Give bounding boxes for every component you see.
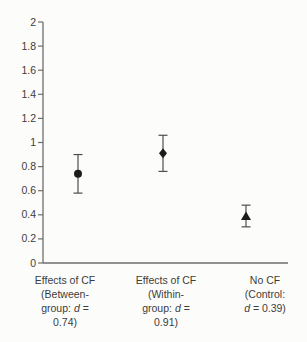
- x-label-line: (Between-: [41, 288, 89, 300]
- x-label-line: Effects of CF: [136, 274, 197, 286]
- data-point-1: [74, 155, 83, 194]
- y-tick-label: 1.8: [21, 40, 36, 52]
- diamond-marker: [159, 148, 167, 158]
- x-label-line: No CF: [250, 274, 280, 286]
- y-tick-label: 2: [30, 16, 36, 28]
- circle-marker: [74, 170, 82, 178]
- x-label-line: d = 0.39): [244, 302, 286, 314]
- y-tick-label: 1.4: [21, 88, 36, 100]
- x-label-line: group: d =: [142, 302, 190, 314]
- triangle-marker: [241, 212, 251, 221]
- x-category-label-2: Effects of CF(Within-group: d =0.91): [136, 274, 197, 328]
- y-tick-label: 0.4: [21, 208, 36, 220]
- x-label-line: (Control:: [245, 288, 285, 300]
- y-tick-label: 1: [30, 136, 36, 148]
- x-label-line: 0.74): [53, 316, 77, 328]
- x-category-label-3: No CF(Control:d = 0.39): [244, 274, 286, 314]
- data-point-3: [241, 205, 251, 227]
- x-label-line: (Within-: [148, 288, 185, 300]
- y-tick-label: 1.2: [21, 112, 36, 124]
- y-tick-label: 0.8: [21, 160, 36, 172]
- x-label-line: Effects of CF: [35, 274, 96, 286]
- y-tick-label: 0.2: [21, 232, 36, 244]
- x-label-line: 0.91): [154, 316, 178, 328]
- data-point-2: [159, 135, 168, 171]
- chart-canvas: 00.20.40.60.811.21.41.61.82Effects of CF…: [0, 0, 307, 342]
- x-label-line: group: d =: [41, 302, 89, 314]
- y-tick-label: 1.6: [21, 64, 36, 76]
- y-tick-label: 0: [30, 257, 36, 269]
- y-tick-label: 0.6: [21, 184, 36, 196]
- effect-size-figure: 00.20.40.60.811.21.41.61.82Effects of CF…: [0, 0, 307, 342]
- x-category-label-1: Effects of CF(Between-group: d =0.74): [35, 274, 96, 328]
